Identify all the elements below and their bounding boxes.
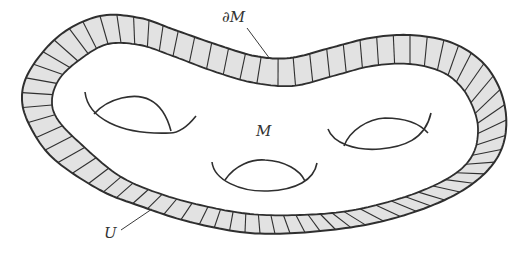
collar-leader-line	[121, 209, 152, 230]
hole-center	[212, 160, 317, 191]
hole-right	[328, 113, 431, 149]
handles-holes	[85, 92, 431, 191]
manifold-diagram: ∂M M U	[0, 0, 526, 255]
hole-left	[85, 92, 196, 133]
manifold-label: M	[256, 124, 271, 139]
boundary-label: ∂M	[222, 10, 245, 25]
collar-label: U	[104, 226, 117, 241]
